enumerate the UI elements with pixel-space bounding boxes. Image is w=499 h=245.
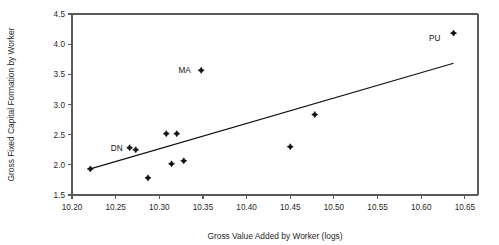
point-label-pu: PU [429, 34, 440, 43]
x-tick-label: 10.60 [411, 203, 432, 212]
data-point [174, 131, 180, 137]
data-point [87, 166, 93, 172]
y-tick-label: 1.5 [54, 191, 66, 200]
x-tick-label: 10.65 [455, 203, 476, 212]
data-point [133, 147, 139, 153]
x-tick-label: 10.30 [149, 203, 170, 212]
data-point [198, 67, 204, 73]
point-label-dn: DN [111, 144, 123, 153]
y-tick-label: 4.5 [54, 10, 66, 19]
y-tick-label: 3.5 [54, 70, 66, 79]
y-axis-title: Gross Fixed Capital Formation by Worker [6, 27, 16, 181]
x-tick-label: 10.40 [236, 203, 257, 212]
data-point [145, 175, 151, 181]
data-point [163, 131, 169, 137]
data-point [181, 158, 187, 164]
data-point [169, 161, 175, 167]
data-point [127, 145, 133, 151]
chart-figure: 1.52.02.53.03.54.04.510.2010.2510.3010.3… [0, 0, 499, 245]
y-tick-label: 4.0 [54, 40, 66, 49]
x-tick-label: 10.20 [62, 203, 83, 212]
x-tick-label: 10.25 [105, 203, 126, 212]
x-tick-label: 10.50 [324, 203, 345, 212]
x-axis-title: Gross Value Added by Worker (logs) [207, 231, 342, 241]
point-label-ma: MA [178, 66, 191, 75]
trend-line [90, 63, 453, 169]
data-point [451, 30, 457, 36]
scatter-plot: 1.52.02.53.03.54.04.510.2010.2510.3010.3… [0, 0, 499, 245]
x-tick-label: 10.45 [280, 203, 301, 212]
x-tick-label: 10.55 [367, 203, 388, 212]
data-point [287, 144, 293, 150]
y-tick-label: 2.5 [54, 131, 66, 140]
data-point [312, 112, 318, 118]
x-tick-label: 10.35 [193, 203, 214, 212]
y-tick-label: 2.0 [54, 161, 66, 170]
y-tick-label: 3.0 [54, 101, 66, 110]
